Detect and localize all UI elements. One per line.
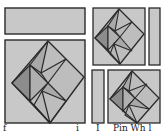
caption-fragment-mid: i: [76, 124, 79, 132]
caption-fragment-left: f: [3, 124, 6, 132]
bottom-right-block: [107, 69, 161, 124]
caption-fragment-mid2: I: [96, 124, 100, 132]
figure-caption: f i I Pin Wh l: [0, 124, 163, 132]
bottom-side-strip: [91, 69, 105, 124]
caption-fragment-right: Pin Wh l: [113, 124, 151, 132]
top-right-block: [92, 7, 146, 66]
top-strip: [4, 7, 86, 35]
left-large-block: [4, 39, 86, 124]
right-side-strip: [148, 7, 161, 66]
